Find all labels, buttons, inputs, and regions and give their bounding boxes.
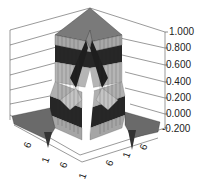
z-tick-label: 1.000 [169, 27, 194, 37]
z-tick-label: 0.400 [166, 77, 191, 87]
z-tick-label: 0.000 [166, 109, 191, 119]
z-tick-label: 0.200 [166, 93, 191, 103]
z-tick-label: -0.200 [162, 124, 190, 134]
z-tick-label: 0.800 [166, 43, 191, 53]
z-tick-label: 0.600 [166, 60, 191, 70]
